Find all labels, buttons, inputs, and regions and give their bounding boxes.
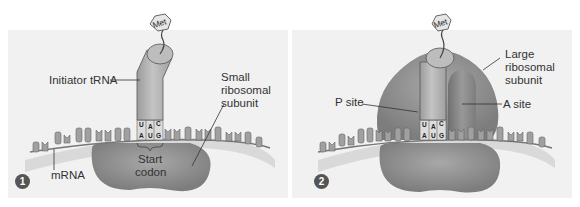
trna-in-p-site <box>420 62 446 120</box>
codon-base: U <box>148 132 153 139</box>
label-large-subunit-1: Large <box>505 48 534 61</box>
step-badge-2: 2 <box>314 174 329 189</box>
codon-base: U <box>431 132 436 139</box>
codon-base: G <box>439 132 444 139</box>
anticodon-base: C <box>156 120 161 127</box>
label-start-codon-1: Start <box>138 153 162 166</box>
label-initiator-trna: Initiator tRNA <box>49 74 117 87</box>
anticodon-base: C <box>439 120 444 127</box>
codon-pairing-1: U A C A U G <box>137 120 163 140</box>
label-mrna: mRNA <box>51 169 85 182</box>
label-small-subunit-3: subunit <box>221 97 258 110</box>
label-small-subunit-1: Small <box>221 71 250 84</box>
codon-pairing-2: U A C A U G <box>420 120 446 140</box>
label-large-subunit-2: ribosomal <box>505 61 555 74</box>
label-large-subunit-3: subunit <box>505 74 542 87</box>
translation-initiation-diagram: U A C A U G Met <box>0 0 580 207</box>
label-a-site: A site <box>503 98 531 111</box>
label-p-site: P site <box>335 96 364 109</box>
anticodon-base: A <box>148 123 153 130</box>
step-badge-1: 1 <box>15 174 30 189</box>
anticodon-base: U <box>139 121 144 128</box>
small-ribosomal-subunit-shape-2 <box>380 143 501 193</box>
codon-base: G <box>156 132 161 139</box>
label-small-subunit-2: ribosomal <box>221 84 271 97</box>
codon-base: A <box>139 132 144 139</box>
codon-base: A <box>422 132 427 139</box>
anticodon-base: A <box>431 123 436 130</box>
label-start-codon-2: codon <box>135 166 166 179</box>
anticodon-base: U <box>422 121 427 128</box>
